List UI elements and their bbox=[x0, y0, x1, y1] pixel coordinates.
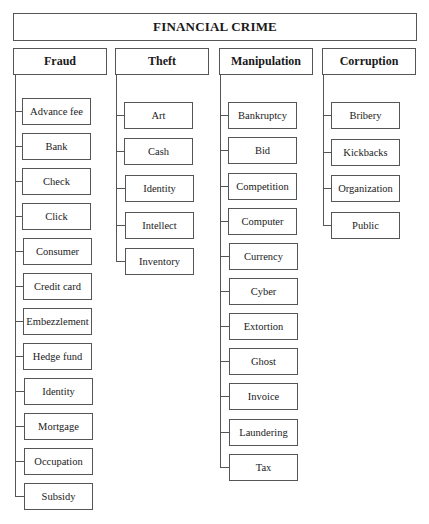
leaf-node: Laundering bbox=[229, 419, 298, 446]
leaf-node: Organization bbox=[331, 175, 400, 202]
leaf-node: Consumer bbox=[23, 238, 92, 265]
connector-line bbox=[15, 391, 24, 392]
leaf-label: Check bbox=[43, 176, 70, 187]
connector-line bbox=[220, 75, 221, 468]
leaf-node: Public bbox=[331, 212, 400, 239]
connector-line bbox=[220, 361, 229, 362]
leaf-label: Tax bbox=[256, 462, 272, 473]
leaf-label: Subsidy bbox=[42, 491, 76, 502]
leaf-label: Invoice bbox=[248, 391, 280, 402]
leaf-node: Mortgage bbox=[24, 413, 93, 440]
connector-line bbox=[116, 115, 124, 116]
connector-line bbox=[15, 426, 24, 427]
connector-line bbox=[220, 467, 229, 468]
leaf-label: Inventory bbox=[139, 256, 180, 267]
leaf-node: Tax bbox=[229, 454, 298, 481]
category-label: Manipulation bbox=[231, 54, 301, 69]
connector-line bbox=[220, 256, 229, 257]
connector-line bbox=[15, 496, 24, 497]
leaf-node: Art bbox=[124, 102, 193, 129]
leaf-label: Bid bbox=[255, 145, 270, 156]
leaf-label: Occupation bbox=[34, 456, 82, 467]
leaf-node: Bid bbox=[228, 137, 297, 164]
leaf-node: Bankruptcy bbox=[228, 102, 297, 129]
leaf-node: Inventory bbox=[125, 248, 194, 275]
leaf-label: Identity bbox=[42, 386, 75, 397]
leaf-node: Cash bbox=[124, 138, 193, 165]
connector-line bbox=[116, 151, 124, 152]
leaf-label: Bankruptcy bbox=[238, 110, 287, 121]
leaf-label: Hedge fund bbox=[33, 351, 82, 362]
connector-line bbox=[323, 188, 331, 189]
connector-line bbox=[116, 75, 117, 261]
connector-line bbox=[323, 75, 324, 225]
connector-line bbox=[220, 221, 228, 222]
leaf-node: Embezzlement bbox=[23, 308, 92, 335]
leaf-node: Extortion bbox=[229, 313, 298, 340]
leaf-label: Laundering bbox=[239, 427, 287, 438]
leaf-label: Cyber bbox=[251, 286, 277, 297]
leaf-node: Check bbox=[22, 168, 91, 195]
category-label: Corruption bbox=[340, 54, 399, 69]
leaf-node: Occupation bbox=[24, 448, 93, 475]
leaf-label: Embezzlement bbox=[26, 316, 88, 327]
leaf-node: Ghost bbox=[229, 348, 298, 375]
leaf-label: Credit card bbox=[34, 281, 81, 292]
leaf-node: Advance fee bbox=[22, 98, 91, 125]
leaf-node: Bribery bbox=[331, 102, 400, 129]
leaf-node: Identity bbox=[125, 175, 194, 202]
connector-line bbox=[15, 251, 23, 252]
leaf-label: Ghost bbox=[251, 356, 276, 367]
leaf-label: Identity bbox=[143, 183, 176, 194]
leaf-label: Advance fee bbox=[30, 106, 83, 117]
leaf-label: Cash bbox=[148, 146, 169, 157]
leaf-node: Competition bbox=[228, 173, 297, 200]
leaf-label: Click bbox=[45, 211, 68, 222]
connector-line bbox=[220, 291, 229, 292]
leaf-label: Public bbox=[352, 220, 379, 231]
category-label: Fraud bbox=[44, 54, 76, 69]
leaf-label: Extortion bbox=[244, 321, 284, 332]
leaf-node: Hedge fund bbox=[23, 343, 92, 370]
connector-line bbox=[116, 225, 125, 226]
leaf-label: Mortgage bbox=[38, 421, 79, 432]
connector-line bbox=[15, 356, 23, 357]
leaf-label: Kickbacks bbox=[343, 147, 387, 158]
connector-line bbox=[116, 261, 125, 262]
connector-line bbox=[220, 115, 228, 116]
category-node-theft: Theft bbox=[115, 48, 209, 75]
connector-line bbox=[116, 188, 125, 189]
connector-line bbox=[323, 225, 331, 226]
leaf-node: Bank bbox=[22, 133, 91, 160]
connector-line bbox=[15, 461, 24, 462]
connector-line bbox=[323, 115, 331, 116]
category-node-fraud: Fraud bbox=[13, 48, 107, 75]
connector-line bbox=[220, 432, 229, 433]
leaf-node: Click bbox=[22, 203, 91, 230]
leaf-label: Art bbox=[152, 110, 166, 121]
leaf-node: Credit card bbox=[23, 273, 92, 300]
leaf-label: Bribery bbox=[349, 110, 381, 121]
connector-line bbox=[323, 152, 331, 153]
leaf-node: Subsidy bbox=[24, 483, 93, 510]
leaf-label: Intellect bbox=[142, 220, 176, 231]
leaf-label: Computer bbox=[242, 216, 284, 227]
leaf-node: Intellect bbox=[125, 212, 194, 239]
connector-line bbox=[220, 326, 229, 327]
leaf-node: Identity bbox=[24, 378, 93, 405]
leaf-node: Invoice bbox=[229, 383, 298, 410]
leaf-label: Competition bbox=[236, 181, 289, 192]
category-node-corruption: Corruption bbox=[322, 48, 416, 75]
connector-line bbox=[15, 321, 23, 322]
leaf-label: Organization bbox=[338, 183, 393, 194]
connector-line bbox=[220, 396, 229, 397]
category-node-manipulation: Manipulation bbox=[219, 48, 313, 75]
connector-line bbox=[220, 150, 228, 151]
leaf-node: Kickbacks bbox=[331, 139, 400, 166]
leaf-node: Cyber bbox=[229, 278, 298, 305]
leaf-node: Currency bbox=[229, 243, 298, 270]
leaf-label: Consumer bbox=[36, 246, 79, 257]
root-node: FINANCIAL CRIME bbox=[13, 13, 417, 41]
root-label: FINANCIAL CRIME bbox=[153, 19, 277, 35]
connector-line bbox=[220, 186, 228, 187]
